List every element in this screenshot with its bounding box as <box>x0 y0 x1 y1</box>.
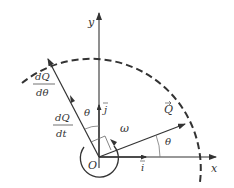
unit-vector-i-label: i <box>141 162 144 173</box>
dq-dt-denominator: dt <box>56 128 67 139</box>
dq-dtheta-numerator: dQ <box>35 71 50 82</box>
vector-derivative-diagram: y x O i j Q θ θ ω dQ dθ dQ dt <box>0 0 234 188</box>
theta-y-label: θ <box>84 107 90 118</box>
origin-label: O <box>88 159 97 172</box>
theta-x-label: θ <box>165 136 171 147</box>
unit-vector-j-label: j <box>102 104 107 115</box>
theta-arc-y <box>85 126 99 129</box>
omega-label: ω <box>120 122 129 135</box>
y-axis-label: y <box>87 16 95 29</box>
dq-dt-numerator: dQ <box>55 112 70 123</box>
vector-q-label: Q <box>164 103 173 116</box>
dq-dtheta-denominator: dθ <box>36 87 48 98</box>
omega-arrowhead <box>110 139 117 146</box>
vector-dq-dtheta <box>48 59 99 157</box>
x-axis-label: x <box>211 162 218 175</box>
theta-arc-x <box>156 135 160 157</box>
